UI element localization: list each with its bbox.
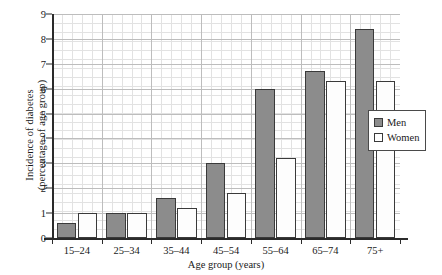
x-tick-mark (301, 238, 302, 244)
legend-label-men: Men (387, 117, 406, 128)
x-tick-mark (52, 238, 53, 244)
bar-women-3 (227, 193, 247, 238)
bar-women-1 (127, 213, 147, 238)
bar-group (251, 14, 301, 238)
diabetes-incidence-bar-chart: Incidence of diabetes (percentage of age… (0, 0, 442, 275)
bar-group (102, 14, 152, 238)
x-tick-mark (251, 238, 252, 244)
bar-women-4 (276, 158, 296, 238)
bar-series-container (52, 14, 400, 238)
legend-label-women: Women (387, 132, 419, 143)
bar-men-3 (206, 163, 226, 238)
x-tick-label: 35–44 (163, 245, 189, 256)
x-axis-line (44, 238, 408, 240)
legend-swatch-men-icon (374, 118, 383, 127)
y-tick-label: 8 (26, 33, 46, 44)
bar-women-6 (376, 81, 396, 238)
y-tick-label: 6 (26, 83, 46, 94)
bar-group (201, 14, 251, 238)
x-tick-label: 75+ (367, 245, 383, 256)
bar-group (52, 14, 102, 238)
y-axis-ticks: 0123456789 (26, 0, 46, 275)
x-tick-label: 55–64 (263, 245, 289, 256)
bar-men-2 (156, 198, 176, 238)
legend: Men Women (368, 110, 426, 151)
bar-women-2 (177, 208, 197, 238)
x-tick-mark (201, 238, 202, 244)
x-tick-label: 45–54 (213, 245, 239, 256)
y-tick-label: 4 (26, 133, 46, 144)
x-tick-label: 15–24 (64, 245, 90, 256)
bar-men-1 (106, 213, 126, 238)
bar-women-0 (78, 213, 98, 238)
y-tick-label: 9 (26, 9, 46, 20)
x-tick-mark (400, 238, 401, 244)
bar-women-5 (326, 81, 346, 238)
y-tick-label: 2 (26, 183, 46, 194)
legend-swatch-women-icon (374, 133, 383, 142)
y-tick-label: 0 (26, 233, 46, 244)
legend-item-men: Men (374, 115, 419, 130)
bar-men-5 (305, 71, 325, 238)
y-tick-label: 5 (26, 108, 46, 119)
bar-group (151, 14, 201, 238)
y-tick-label: 7 (26, 58, 46, 69)
bar-men-0 (57, 223, 77, 238)
x-tick-label: 65–74 (312, 245, 338, 256)
x-tick-mark (350, 238, 351, 244)
bar-group (301, 14, 351, 238)
x-axis-title: Age group (years) (52, 259, 400, 270)
y-tick-label: 1 (26, 208, 46, 219)
bar-men-4 (255, 89, 275, 238)
x-tick-mark (102, 238, 103, 244)
y-tick-label: 3 (26, 158, 46, 169)
x-tick-mark (151, 238, 152, 244)
x-tick-label: 25–34 (113, 245, 139, 256)
legend-item-women: Women (374, 130, 419, 145)
